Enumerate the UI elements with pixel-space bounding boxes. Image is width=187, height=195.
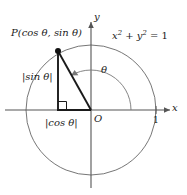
x-axis-arrowhead bbox=[164, 107, 170, 113]
eq-equals-one: = 1 bbox=[147, 30, 168, 41]
y-axis-label: y bbox=[94, 12, 100, 22]
origin-label: O bbox=[94, 114, 102, 124]
x-axis-label: x bbox=[172, 103, 178, 113]
eq-plus: + bbox=[122, 30, 137, 41]
sin-segment-label: |sin θ| bbox=[22, 72, 53, 82]
circle-equation-label: x2 + y2 = 1 bbox=[112, 30, 168, 41]
unit-tick-label: 1 bbox=[153, 116, 159, 125]
point-p-marker bbox=[55, 48, 61, 54]
y-axis-arrowhead bbox=[88, 22, 94, 28]
angle-theta-label: θ bbox=[101, 65, 107, 75]
point-p-label: P(cos θ, sin θ) bbox=[11, 28, 82, 38]
right-angle-marker bbox=[58, 102, 67, 111]
cos-segment-label: |cos θ| bbox=[45, 118, 78, 128]
unit-circle-figure: P(cos θ, sin θ) x2 + y2 = 1 |sin θ| |cos… bbox=[0, 0, 187, 195]
